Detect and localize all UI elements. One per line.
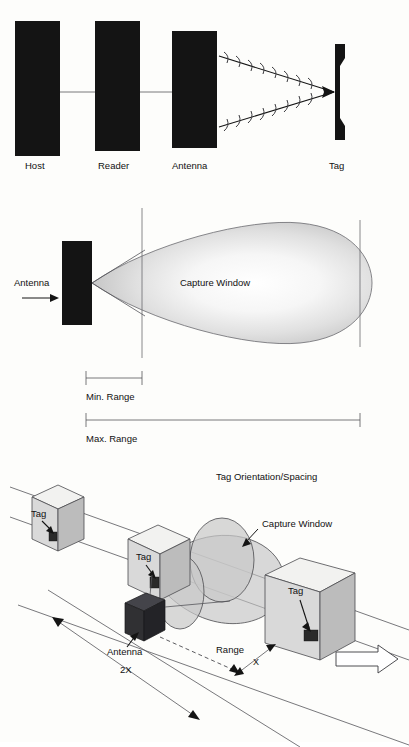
tag-cube-1: Tag [31,485,84,551]
radiation-lower [219,92,334,131]
label-range: Range [216,644,244,655]
label-antenna: Antenna [14,277,50,288]
tag-cube-3: Tag [265,558,355,660]
label-max-range: Max. Range [86,433,137,444]
travel-direction-arrow [336,645,398,673]
label-tag-1: Tag [31,508,46,519]
antenna-block [62,241,92,325]
panel-rfid-signal-path: Host Reader Antenna Tag [0,0,409,190]
min-range-dimension [86,371,142,385]
label-host: Host [25,160,45,171]
label-tag: Tag [329,160,344,171]
radiation-arrowhead [322,86,335,98]
panel-capture-window-range: Antenna Capture Window Min. Range Max. R… [0,190,409,450]
antenna-pointer-arrow [22,294,59,302]
label-tag-2: Tag [136,551,151,562]
tag-chip-3 [304,630,318,641]
label-min-range: Min. Range [86,391,135,402]
label-tag-3: Tag [288,585,303,596]
radiation-upper [219,52,334,92]
label-reader: Reader [98,160,129,171]
label-antenna: Antenna [107,646,143,657]
tag-cube-2: Tag [128,525,190,600]
label-gap-x: X [253,657,259,667]
label-antenna: Antenna [172,160,208,171]
label-capture-window: Capture Window [180,277,250,288]
range-dimension: Range [160,637,244,674]
block-reader [95,21,140,151]
label-spacing-2x: 2X [120,664,132,675]
panel-tag-orientation-spacing: Tag Orientation/Spacing Tag [0,455,409,747]
block-host [15,21,60,156]
max-range-dimension [86,413,360,427]
block-antenna [172,31,217,148]
block-tag [335,44,345,140]
label-capture-window: Capture Window [262,518,332,529]
panel-title: Tag Orientation/Spacing [216,471,317,482]
